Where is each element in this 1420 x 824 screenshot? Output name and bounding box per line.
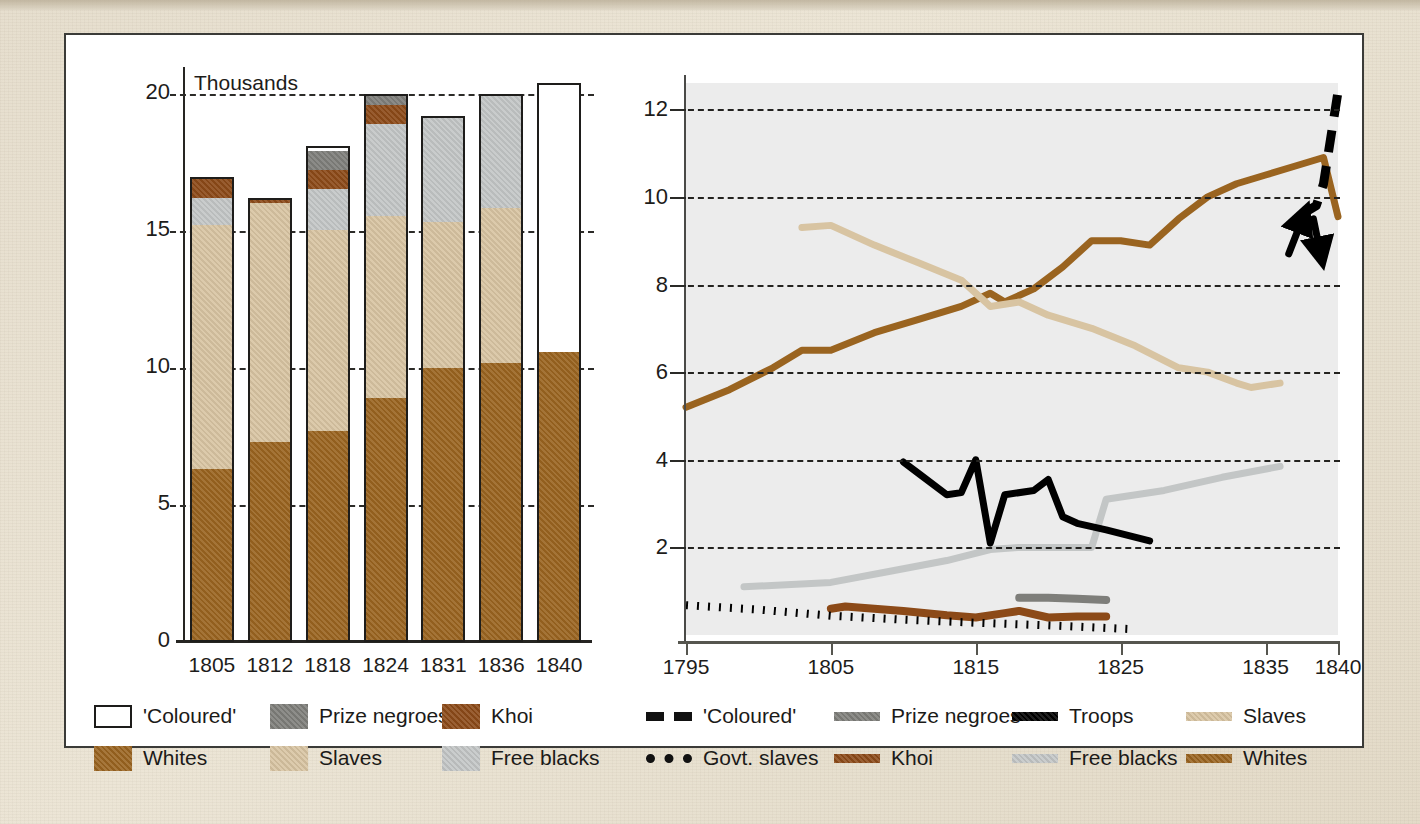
bar-segment-khoi — [366, 105, 406, 124]
legend-line-swatch — [646, 712, 692, 721]
legend-item[interactable]: Slaves — [270, 746, 382, 771]
legend-swatch — [94, 746, 132, 771]
legend-item[interactable]: Slaves — [1186, 704, 1306, 728]
legend-item-label: Prize negroes — [319, 704, 449, 728]
legend-row: 'Coloured'Prize negroesTroopsSlaves — [646, 695, 1346, 737]
bar-segment-khoi — [192, 179, 232, 198]
bar-x-tick-label: 1840 — [524, 653, 594, 677]
bar-column — [537, 83, 581, 642]
bar-segment-khoi — [308, 170, 348, 189]
line-y-tick-label: 4 — [628, 447, 668, 473]
legend-item[interactable]: 'Coloured' — [646, 704, 796, 728]
bar-segment-slaves — [308, 230, 348, 431]
legend-line-swatch — [1012, 754, 1058, 763]
legend-item-label: Whites — [143, 746, 207, 770]
line-series-whites — [686, 157, 1338, 407]
line-series-slaves — [802, 225, 1280, 387]
bar-column — [306, 146, 350, 642]
line-x-tick-mark — [831, 641, 833, 655]
bar-segment-free-blacks — [192, 198, 232, 225]
line-series-svg — [686, 83, 1338, 635]
line-y-tick-mark — [670, 547, 686, 549]
legend-row: WhitesSlavesFree blacks — [94, 737, 614, 779]
legend-item[interactable]: Troops — [1012, 704, 1134, 728]
line-y-tick-mark — [670, 460, 686, 462]
legend-item-label: Slaves — [1243, 704, 1306, 728]
bar-segment-slaves — [481, 208, 521, 363]
legend-item-label: Slaves — [319, 746, 382, 770]
bar-segment-free-blacks — [423, 118, 463, 221]
bar-segment-free-blacks — [481, 96, 521, 207]
line-gridline — [678, 372, 1340, 374]
line-y-tick-mark — [670, 372, 686, 374]
bar-column — [190, 177, 234, 642]
line-chart-legend: 'Coloured'Prize negroesTroopsSlavesGovt.… — [646, 695, 1346, 779]
legend-item-label: 'Coloured' — [703, 704, 796, 728]
bar-unit-label: Thousands — [194, 71, 298, 95]
bar-y-tick-label: 15 — [124, 218, 170, 240]
bar-y-tick-label: 10 — [124, 355, 170, 377]
legend-item[interactable]: Prize negroes — [834, 704, 1021, 728]
legend-item[interactable]: Govt. slaves — [646, 746, 819, 770]
bar-y-tick-label: 0 — [124, 629, 170, 651]
annotation-arrow — [1313, 219, 1320, 254]
legend-item-label: Free blacks — [1069, 746, 1178, 770]
legend-item[interactable]: Whites — [94, 746, 207, 771]
top-shadow-band — [0, 0, 1420, 10]
line-x-tick-label: 1825 — [1083, 655, 1159, 679]
bar-segment-slaves — [250, 203, 290, 442]
line-x-tick-mark — [1338, 641, 1340, 655]
line-gridline — [678, 547, 1340, 549]
bar-y-tick-label: 20 — [124, 81, 170, 103]
line-x-tick-mark — [976, 641, 978, 655]
line-gridline — [678, 285, 1340, 287]
line-y-tick-mark — [670, 285, 686, 287]
legend-item[interactable]: Free blacks — [1012, 746, 1178, 770]
line-y-tick-label: 10 — [628, 184, 668, 210]
legend-item[interactable]: Khoi — [834, 746, 933, 770]
line-y-tick-label: 8 — [628, 272, 668, 298]
legend-item[interactable]: Khoi — [442, 704, 533, 729]
line-y-axis — [684, 75, 686, 643]
bar-chart-legend: 'Coloured'Prize negroesKhoiWhitesSlavesF… — [94, 695, 614, 779]
bar-segment-prize-negroes — [366, 96, 406, 104]
legend-item-label: Khoi — [891, 746, 933, 770]
line-x-tick-label: 1805 — [793, 655, 869, 679]
legend-item[interactable]: Prize negroes — [270, 704, 449, 729]
legend-swatch — [442, 746, 480, 771]
legend-swatch — [270, 746, 308, 771]
line-y-tick-label: 2 — [628, 534, 668, 560]
line-x-tick-mark — [686, 641, 688, 655]
line-x-tick-label: 1835 — [1228, 655, 1304, 679]
legend-line-swatch — [646, 754, 692, 763]
bar-segment-whites — [481, 363, 521, 640]
legend-item-label: Khoi — [491, 704, 533, 728]
legend-line-swatch — [834, 754, 880, 763]
bar-segment-whites — [192, 469, 232, 640]
bar-segment-free-blacks — [308, 189, 348, 230]
legend-swatch — [442, 704, 480, 729]
legend-item[interactable]: 'Coloured' — [94, 704, 236, 728]
line-y-tick-label: 12 — [628, 96, 668, 122]
line-x-tick-mark — [1121, 641, 1123, 655]
legend-item[interactable]: Whites — [1186, 746, 1307, 770]
line-series-prize-negroes — [1019, 598, 1106, 600]
bar-segment-coloured — [539, 85, 579, 351]
line-x-tick-label: 1795 — [648, 655, 724, 679]
line-gridline — [678, 460, 1340, 462]
legend-row: 'Coloured'Prize negroesKhoi — [94, 695, 614, 737]
bar-segment-whites — [423, 368, 463, 640]
bar-segment-whites — [366, 398, 406, 640]
line-gridline — [678, 197, 1340, 199]
line-y-tick-label: 6 — [628, 359, 668, 385]
annotation-arrow — [1289, 217, 1303, 254]
legend-swatch — [94, 705, 132, 728]
legend-swatch — [270, 704, 308, 729]
line-x-tick-label: 1840 — [1300, 655, 1376, 679]
legend-item-label: 'Coloured' — [143, 704, 236, 728]
line-gridline — [678, 109, 1340, 111]
legend-line-swatch — [1186, 712, 1232, 721]
legend-item-label: Prize negroes — [891, 704, 1021, 728]
bar-segment-prize-negroes — [308, 151, 348, 170]
legend-item[interactable]: Free blacks — [442, 746, 600, 771]
